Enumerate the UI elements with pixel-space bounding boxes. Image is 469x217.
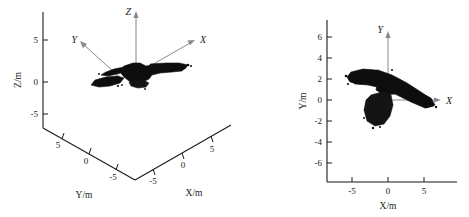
body-y-arrow-label: Y	[71, 34, 78, 45]
body-y-arrow-label: Y	[377, 24, 384, 35]
scatter-speck	[372, 127, 374, 129]
scatter-speck	[98, 73, 100, 75]
body-z-arrow-label: Z	[125, 6, 131, 17]
body-x-arrow-head	[187, 40, 195, 45]
x-ticklabel-0: 0	[181, 160, 186, 170]
y-ticklabel-neg5: -5	[109, 172, 117, 182]
scatter-speck	[345, 75, 348, 78]
x-axis-line	[135, 125, 231, 180]
y-axis-label: Y/m	[76, 190, 94, 200]
y-tick-0	[89, 148, 91, 154]
scatter-speck	[187, 64, 190, 67]
y-ticklabel-5: 5	[56, 140, 61, 150]
y-ticklabel-neg2: -2	[315, 116, 323, 126]
panel-3d-scatter: 5 0 -5 Z/m 5 0 -5 Y/m -5 0 5 X/m	[0, 0, 235, 217]
scatter-wing-tip-right	[414, 93, 435, 108]
body-x-arrow-label: X	[445, 95, 453, 106]
x-axis-label: X/m	[186, 188, 204, 198]
scatter-speck	[121, 84, 123, 86]
body-x-arrow-head	[434, 97, 441, 102]
scatter-fuselage	[364, 92, 393, 126]
scatter-speck	[379, 126, 381, 128]
panel-2d-svg: 6 4 2 0 -2 -4 -6 Y/m -5 0 5 X/m Y X	[235, 0, 469, 217]
scatter-tail	[129, 80, 149, 88]
y-ticklabel-4: 4	[318, 53, 323, 63]
z-ticklabel-5: 5	[34, 35, 39, 45]
x-ticklabel-neg5: -5	[348, 186, 356, 196]
y-axis-label: Y/m	[298, 92, 308, 110]
body-y-arrow-head	[385, 31, 390, 38]
z-ticklabel-0: 0	[34, 77, 39, 87]
scatter-wing-left-upper	[101, 67, 124, 76]
scatter-speck	[435, 106, 437, 108]
y-ticklabel-2: 2	[318, 74, 323, 84]
y-ticklabel-neg4: -4	[315, 137, 323, 147]
z-ticklabel-neg5: -5	[31, 109, 39, 119]
scatter-wing-detached	[91, 76, 124, 87]
x-ticklabel-5: 5	[210, 144, 215, 154]
scatter-speck	[347, 83, 349, 85]
x-ticklabel-neg5: -5	[149, 176, 157, 186]
body-z-arrow-head	[133, 11, 138, 18]
scatter-cloud-3d	[91, 63, 192, 90]
y-ticklabel-0: 0	[318, 95, 323, 105]
scatter-speck	[144, 88, 146, 90]
y-ticklabel-0: 0	[84, 156, 89, 166]
x-axis-label: X/m	[380, 201, 398, 211]
z-axis-label: Z/m	[13, 71, 23, 87]
y-tick-5	[62, 133, 64, 139]
y-tick-neg5	[116, 164, 118, 170]
x-ticklabel-0: 0	[386, 186, 391, 196]
panel-3d-svg: 5 0 -5 Z/m 5 0 -5 Y/m -5 0 5 X/m	[0, 0, 235, 217]
scatter-speck	[117, 85, 119, 87]
scatter-cloud-2d	[345, 69, 438, 129]
y-ticklabel-neg6: -6	[315, 158, 323, 168]
body-x-arrow-label: X	[199, 34, 207, 45]
scatter-speck	[391, 69, 393, 71]
y-ticklabel-6: 6	[318, 32, 323, 42]
panel-2d-scatter: 6 4 2 0 -2 -4 -6 Y/m -5 0 5 X/m Y X	[235, 0, 469, 217]
x-tick-neg5	[153, 169, 155, 175]
x-tick-0	[182, 153, 184, 159]
scatter-speck	[363, 117, 365, 119]
scatter-speck	[190, 65, 192, 67]
figure-canvas: 5 0 -5 Z/m 5 0 -5 Y/m -5 0 5 X/m	[0, 0, 469, 217]
x-tick-5	[211, 136, 213, 142]
x-ticklabel-5: 5	[422, 186, 427, 196]
